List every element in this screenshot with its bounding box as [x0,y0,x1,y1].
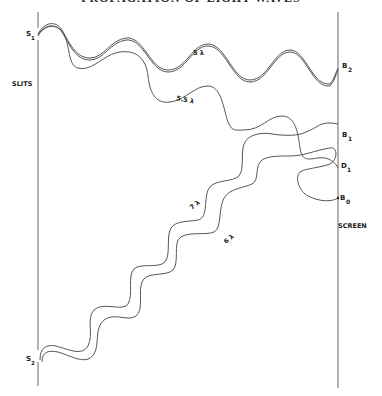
s1-subscript: 1 [31,35,35,41]
path-label-7-lambda: 7 λ [188,198,201,211]
b0-letter: B [340,194,345,202]
point-d1-label: D 1 [341,162,351,173]
b0-subscript: 0 [346,198,350,205]
d1-subscript: 1 [347,166,351,173]
wave-s1-b2-outer [38,24,338,84]
path-label-6-lambda: 6 λ [222,232,235,245]
b2-letter: B [342,62,347,70]
b0-marker [337,197,339,199]
point-b2-label: B 2 [342,62,352,73]
path-label-5-5-lambda: 5.5 λ [176,94,195,106]
b1-letter: B [342,131,347,139]
b1-subscript: 1 [348,135,352,142]
wave-s2-b0 [42,148,338,362]
interference-diagram: SLITS SCREEN S 1 S 2 B 2 B 1 D 1 B 0 5 λ… [0,0,382,396]
b2-subscript: 2 [348,66,352,73]
wave-s2-b1 [40,123,338,360]
screen-label: SCREEN [338,222,367,230]
path-label-5-lambda: 5 λ [193,49,204,57]
source-s1-label: S 1 [26,30,35,41]
s2-subscript: 2 [31,360,35,366]
slits-label: SLITS [12,80,33,88]
point-b0-label: B 0 [337,194,350,205]
source-s2-label: S 2 [26,355,35,366]
point-b1-label: B 1 [342,131,352,142]
